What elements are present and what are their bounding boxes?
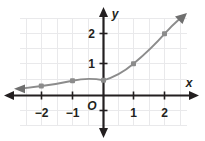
data-point (39, 83, 44, 88)
curve-left-arrow (14, 85, 25, 94)
curve-path (21, 19, 180, 89)
origin-label: O (87, 99, 97, 113)
data-point (101, 78, 106, 83)
x-axis-label: x (185, 76, 194, 90)
data-point (70, 78, 75, 83)
y-axis-label: y (111, 7, 120, 21)
data-point (162, 31, 167, 36)
y-tick-label-1: 1 (88, 57, 95, 71)
x-axis (4, 91, 199, 100)
coordinate-plane-figure: −2 −1 1 2 1 2 O y x (0, 0, 205, 141)
y-axis-up-arrow (99, 7, 108, 17)
x-tick-label-neg1: −1 (66, 106, 80, 120)
x-tick-label-2: 2 (161, 106, 168, 120)
exponential-curve (14, 13, 187, 93)
x-axis-left-arrow (4, 91, 14, 100)
data-point (131, 61, 136, 66)
graph-screenshot: −2 −1 1 2 1 2 O y x (0, 0, 205, 141)
x-axis-right-arrow (189, 91, 199, 100)
x-tick-label-1: 1 (130, 106, 137, 120)
y-tick-label-2: 2 (88, 27, 95, 41)
y-axis (99, 7, 108, 138)
y-axis-down-arrow (99, 128, 108, 138)
x-tick-label-neg2: −2 (35, 106, 49, 120)
